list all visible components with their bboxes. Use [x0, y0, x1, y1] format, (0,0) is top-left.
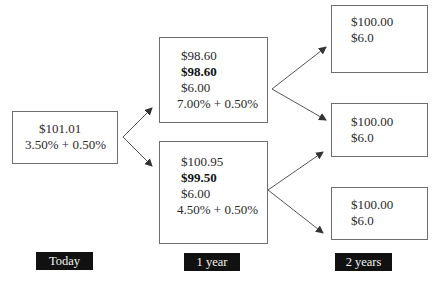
time-label-1-year: 1 year — [184, 253, 240, 271]
2y-top-coupon: $6.0 — [351, 30, 427, 46]
1y-up-value: $98.60 — [177, 48, 267, 64]
node-2y-mid: $100.00 $6.0 — [331, 103, 428, 157]
edge-1y-up-to-2y-mid — [272, 89, 326, 120]
1y-down-price: $99.50 — [177, 170, 267, 186]
today-rate: 3.50% + 0.50% — [25, 137, 117, 153]
edge-1y-down-to-2y-mid — [268, 152, 323, 190]
edge-today-to-1y-down — [123, 137, 152, 166]
1y-up-coupon: $6.00 — [177, 80, 267, 96]
time-label-2-years: 2 years — [335, 253, 392, 271]
node-2y-top: $100.00 $6.0 — [331, 5, 428, 73]
1y-up-rate: 7.00% + 0.50% — [177, 96, 267, 112]
edge-today-to-1y-up — [123, 108, 152, 137]
1y-up-price: $98.60 — [177, 64, 267, 80]
today-price: $101.01 — [25, 121, 117, 137]
edge-1y-down-to-2y-bottom — [268, 190, 323, 233]
node-1y-down: $100.95 $99.50 $6.00 4.50% + 0.50% — [159, 141, 268, 244]
node-1y-up: $98.60 $98.60 $6.00 7.00% + 0.50% — [159, 37, 268, 123]
1y-down-value: $100.95 — [177, 154, 267, 170]
1y-down-rate: 4.50% + 0.50% — [177, 202, 267, 218]
node-today: $101.01 3.50% + 0.50% — [12, 111, 118, 164]
2y-bottom-price: $100.00 — [351, 197, 427, 213]
edge-1y-up-to-2y-top — [272, 47, 326, 89]
2y-mid-coupon: $6.0 — [351, 130, 427, 146]
time-label-today: Today — [36, 252, 93, 270]
2y-mid-price: $100.00 — [351, 114, 427, 130]
1y-down-coupon: $6.00 — [177, 186, 267, 202]
node-2y-bottom: $100.00 $6.0 — [331, 187, 428, 240]
2y-top-price: $100.00 — [351, 14, 427, 30]
2y-bottom-coupon: $6.0 — [351, 213, 427, 229]
